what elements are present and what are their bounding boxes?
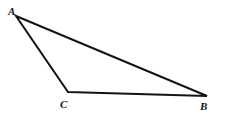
vertex-label-c: C xyxy=(60,99,67,110)
vertex-label-b: B xyxy=(200,101,207,112)
geometry-figure-canvas: A C B xyxy=(0,0,225,119)
vertex-label-a: A xyxy=(8,6,15,17)
triangle-svg xyxy=(0,0,225,119)
triangle-outline-path xyxy=(16,16,207,96)
